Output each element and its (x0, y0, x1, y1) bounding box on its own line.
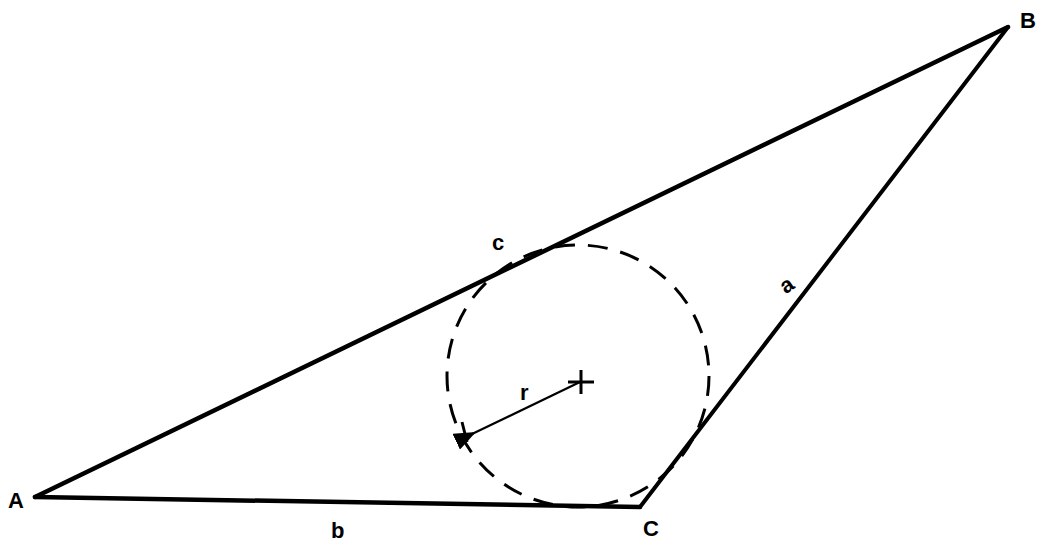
radius-label-r: r (520, 380, 529, 405)
side-b-line (35, 497, 640, 507)
incircle (447, 245, 709, 507)
incircle-triangle-diagram: A B C c a b r (0, 0, 1048, 558)
center-marker-icon (568, 370, 594, 394)
side-a-line (640, 27, 1008, 507)
side-label-b: b (331, 518, 344, 543)
vertex-label-a: A (8, 488, 24, 513)
side-label-c: c (492, 230, 504, 255)
side-label-a: a (774, 271, 799, 299)
vertex-label-b: B (1020, 8, 1036, 33)
side-c-line (35, 27, 1008, 497)
vertex-label-c: C (643, 516, 659, 541)
